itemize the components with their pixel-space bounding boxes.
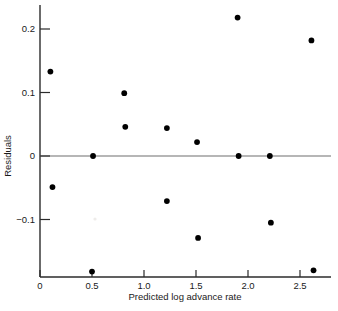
data-point-15 bbox=[311, 267, 317, 273]
data-point-5 bbox=[122, 124, 128, 130]
scatter-plot-canvas: 00.51.01.52.02.50.20.10−0.1 Predicted lo… bbox=[0, 0, 338, 311]
data-point-7 bbox=[164, 198, 170, 204]
data-point-12 bbox=[267, 153, 273, 159]
data-point-4 bbox=[121, 90, 127, 96]
data-point-14 bbox=[309, 38, 315, 44]
data-point-9 bbox=[195, 235, 201, 241]
data-point-3 bbox=[90, 153, 96, 159]
smudge-mark-1 bbox=[93, 217, 96, 220]
y-axis-title: Residuals bbox=[2, 135, 13, 177]
x-tick-label-0: 0 bbox=[37, 280, 42, 291]
y-tick-label-3: −0.1 bbox=[16, 214, 35, 225]
x-tick-label-3: 1.5 bbox=[189, 280, 202, 291]
data-points-group bbox=[48, 15, 317, 275]
data-point-13 bbox=[268, 220, 274, 226]
x-tick-label-5: 2.5 bbox=[293, 280, 306, 291]
residual-scatter-figure: 00.51.01.52.02.50.20.10−0.1 Predicted lo… bbox=[0, 0, 338, 311]
data-point-2 bbox=[89, 269, 95, 275]
x-tick-label-2: 1.0 bbox=[137, 280, 150, 291]
axis-ticks-group bbox=[40, 29, 300, 277]
paper-smudge-marks bbox=[93, 217, 96, 220]
x-tick-label-1: 0.5 bbox=[85, 280, 98, 291]
axes-group bbox=[40, 5, 331, 277]
data-point-1 bbox=[50, 184, 56, 190]
data-point-10 bbox=[235, 15, 241, 21]
x-axis-title: Predicted log advance rate bbox=[128, 291, 241, 302]
data-point-0 bbox=[48, 69, 54, 75]
data-point-8 bbox=[194, 139, 200, 145]
y-tick-label-0: 0.2 bbox=[22, 23, 35, 34]
x-tick-label-4: 2.0 bbox=[241, 280, 254, 291]
data-point-6 bbox=[164, 125, 170, 131]
y-tick-label-1: 0.1 bbox=[22, 87, 35, 98]
axis-tick-labels-group: 00.51.01.52.02.50.20.10−0.1 bbox=[16, 23, 306, 291]
data-point-11 bbox=[236, 153, 242, 159]
y-tick-label-2: 0 bbox=[30, 150, 35, 161]
